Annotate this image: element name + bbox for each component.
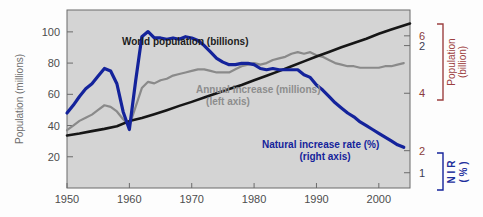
right-population-axis-title-line2: (billion): [457, 46, 468, 78]
right-population-axis-tick-label: 4: [419, 87, 425, 99]
x-axis-tick-label: 1970: [179, 193, 203, 205]
left-axis-tick-labels: 20406080100: [42, 26, 60, 163]
population-growth-chart: 20406080100 Population (millions) 195019…: [0, 0, 483, 217]
right-population-bracket: [437, 24, 443, 100]
right-nir-axis-tick-label: 2: [419, 40, 425, 52]
left-axis-tick-label: 20: [48, 151, 60, 163]
left-axis-tick-label: 40: [48, 120, 60, 132]
annual-increase-label-line1: Annual increase (millions): [196, 84, 320, 95]
x-axis-tick-label: 1980: [242, 193, 266, 205]
right-nir-axis-tick-label: 1: [419, 167, 425, 179]
right-nir-bracket: [437, 153, 443, 190]
natural-increase-rate-label-line2: (right axis): [299, 151, 350, 162]
x-axis-tick-label: 2000: [367, 193, 391, 205]
right-population-axis-title-line1: Population: [446, 38, 457, 85]
chart-figure: 20406080100 Population (millions) 195019…: [0, 0, 483, 217]
left-axis-tick-label: 60: [48, 88, 60, 100]
natural-increase-rate-label-line1: Natural increase rate (%): [262, 139, 379, 150]
right-nir-axis-title-line1: N I R: [446, 160, 457, 184]
right-population-axis-tick-label: 2: [419, 145, 425, 157]
right-nir-axis-tick-labels: 12: [419, 40, 425, 179]
right-nir-axis-title-line2: ( % ): [458, 161, 469, 182]
left-axis-tick-label: 100: [42, 26, 60, 38]
left-axis-title: Population (millions): [14, 54, 25, 144]
x-axis-tick-labels: 195019601970198019902000: [55, 193, 391, 205]
x-axis-tick-label: 1960: [117, 193, 141, 205]
x-axis-tick-label: 1990: [304, 193, 328, 205]
annual-increase-label-line2: (left axis): [206, 96, 250, 107]
left-axis-tick-label: 80: [48, 57, 60, 69]
world-population-label: World population (billions): [122, 36, 248, 47]
x-axis-tick-label: 1950: [55, 193, 79, 205]
